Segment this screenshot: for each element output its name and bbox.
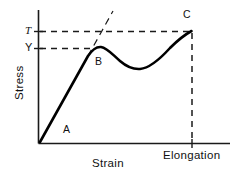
elastic-tangent-line <box>88 11 113 56</box>
curve-point-label-b: B <box>95 56 102 67</box>
y-axis-title: Stress <box>14 54 26 112</box>
x-tick-label-elongation: Elongation <box>163 150 220 162</box>
y-tick-label-T: T <box>25 25 31 36</box>
curve-point-label-c: C <box>183 9 191 20</box>
curve-point-label-a: A <box>63 124 70 135</box>
stress-strain-figure: Stress Strain Elongation T Y A B C <box>0 0 236 179</box>
y-tick-label-Y: Y <box>25 42 32 53</box>
x-axis-title: Strain <box>92 158 124 170</box>
